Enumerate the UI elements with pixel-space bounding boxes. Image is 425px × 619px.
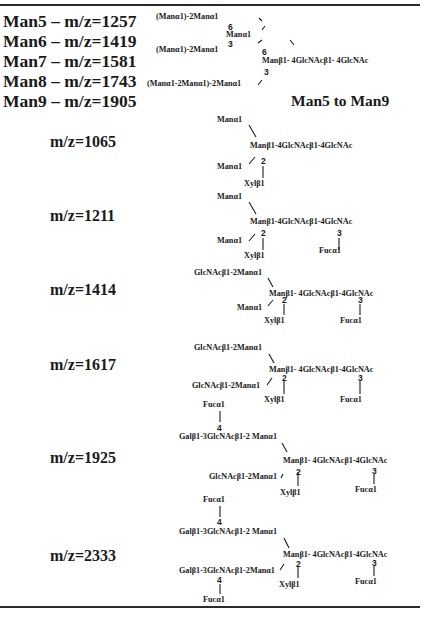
xyl: Xylβ1 (264, 316, 285, 326)
lower-branch: Manα1 (237, 303, 262, 313)
mz-label: m/z=1065 (50, 133, 116, 151)
row-label-man6: Man6 – m/z=1419 (3, 31, 136, 51)
mz-label: m/z=1617 (50, 356, 116, 374)
fuc: Fucα1 (355, 485, 377, 495)
top-rule (0, 4, 420, 6)
xyl-link: 2 (296, 559, 301, 569)
xyl: Xylβ1 (244, 251, 265, 261)
upper-branch: GlcNAcβ1-2Manα1 (194, 343, 262, 353)
row-label-man9: Man9 – m/z=1905 (3, 91, 136, 111)
upper-branch: Galβ1-3GlcNAcβ1-2 Manα1 (179, 432, 277, 442)
core: Manβ1-4GlcNAcβ1-4GlcNAc (250, 217, 352, 227)
xyl: Xylβ1 (280, 488, 301, 498)
lower-fuc-link: 4 (217, 575, 222, 585)
lower-branch: Galβ1-3GlcNAcβ1-2Manα1 (179, 566, 275, 576)
xyl: Xylβ1 (244, 179, 265, 189)
lower-branch: GlcNAcβ1-2Manα1 (209, 472, 277, 482)
fuc: Fucα1 (355, 577, 377, 587)
mz-label: m/z=1925 (50, 449, 116, 467)
lower-branch: Manα1 (217, 236, 242, 246)
mz-label: m/z=2333 (50, 547, 116, 565)
core: Manβ1- 4GlcNAcβ1- 4GlcNAc (262, 56, 368, 66)
upper-branch: Galβ1-3GlcNAcβ1-2 Manα1 (179, 527, 277, 537)
lower-branch: GlcNAcβ1-2Manα1 (192, 381, 260, 391)
upper-branch: Manα1 (217, 115, 242, 125)
branch-top: (Manα1)-2Manα1 (156, 12, 218, 22)
branch-mid: (Manα1)-2Manα1 (156, 45, 218, 55)
xyl-link: 2 (261, 156, 266, 166)
upper-branch: Manα1 (217, 192, 242, 202)
upper-fuc-link: 4 (217, 517, 222, 527)
mannose-caption: Man5 to Man9 (291, 92, 389, 110)
mz-label: m/z=1414 (50, 281, 116, 299)
upper-fuc: Fucα1 (203, 495, 225, 505)
core: Manβ1- 4GlcNAcβ1-4GlcNAc (283, 456, 387, 466)
fuc-link: 3 (337, 228, 342, 238)
mz-label: m/z=1211 (50, 207, 115, 225)
fuc-link: 3 (358, 295, 363, 305)
fuc: Fucα1 (340, 395, 362, 405)
bottom-rule (0, 606, 420, 608)
lower-fuc: Fucα1 (203, 595, 225, 605)
fuc-link: 3 (372, 558, 377, 568)
link-3b: 3 (264, 67, 269, 77)
row-label-man8: Man8 – m/z=1743 (3, 71, 136, 91)
row-label-man5: Man5 – m/z=1257 (3, 11, 136, 31)
core: Manβ1-4GlcNAcβ1-4GlcNAc (250, 141, 352, 151)
xyl-link: 2 (296, 467, 301, 477)
upper-branch: GlcNAcβ1-2Manα1 (194, 268, 262, 278)
lower-branch: Manα1 (217, 162, 242, 172)
xyl-link: 2 (261, 228, 266, 238)
row-label-man7: Man7 – m/z=1581 (3, 51, 136, 71)
xyl-link: 2 (282, 373, 287, 383)
fuc-link: 3 (372, 466, 377, 476)
fuc-link: 3 (358, 373, 363, 383)
xyl: Xylβ1 (279, 580, 300, 590)
fuc: Fucα1 (319, 246, 341, 256)
link-3a: 3 (228, 39, 233, 49)
xyl: Xylβ1 (264, 395, 285, 405)
upper-fuc: Fucα1 (203, 400, 225, 410)
branch-bottom: (Manα1-2Manα1)-2Manα1 (147, 79, 241, 89)
xyl-link: 2 (282, 295, 287, 305)
fuc: Fucα1 (340, 316, 362, 326)
